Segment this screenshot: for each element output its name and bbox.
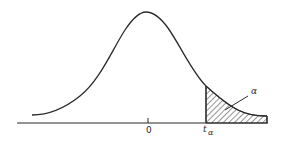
shaded-tail-region — [206, 86, 267, 123]
t-label: t — [203, 124, 207, 134]
density-curve — [32, 12, 267, 116]
zero-label: 0 — [146, 125, 152, 135]
t-subscript-alpha: α — [208, 128, 214, 137]
alpha-pointer-line — [225, 96, 248, 110]
alpha-label: α — [251, 86, 257, 96]
t-distribution-chart: 0 t α α — [0, 0, 283, 142]
